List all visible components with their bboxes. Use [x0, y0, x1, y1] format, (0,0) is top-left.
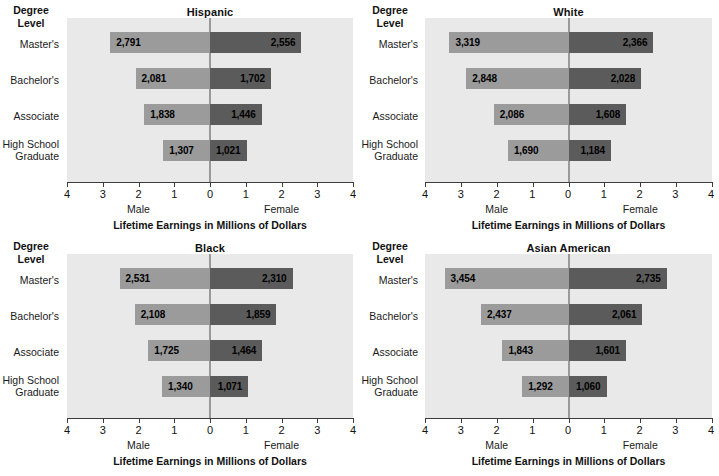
y-tick-label: Bachelor's: [356, 310, 418, 322]
x-axis-tick: [246, 182, 247, 187]
bar-value-label: 1,702: [234, 73, 271, 84]
x-tick-label: 1: [164, 188, 184, 200]
bar-value-label: 1,060: [570, 381, 607, 392]
chart-panel-white: WhiteDegree LevelMaster'sBachelor'sAssoc…: [359, 0, 719, 236]
bar-male: 1,307: [163, 140, 210, 161]
bar-male: 2,081: [136, 68, 210, 89]
bar-value-label: 1,601: [589, 345, 626, 356]
y-tick-label: Associate: [0, 110, 59, 122]
bar-value-label: 1,690: [508, 145, 545, 156]
chart-grid: HispanicDegree LevelMaster'sBachelor'sAs…: [0, 0, 719, 476]
bar-value-label: 1,446: [225, 109, 262, 120]
y-tick-label: Bachelor's: [356, 74, 418, 86]
bar-value-label: 2,848: [466, 73, 503, 84]
bar-row: 2,7912,556: [67, 32, 353, 53]
bar-row: 1,8381,446: [67, 104, 353, 125]
bar-male: 2,086: [494, 104, 569, 125]
x-axis-title: Lifetime Earnings in Millions of Dollars: [425, 455, 712, 467]
y-tick-label: Associate: [356, 110, 418, 122]
x-axis-tick: [139, 418, 140, 423]
bar-row: 1,6901,184: [425, 140, 712, 161]
bar-value-label: 1,859: [240, 309, 277, 320]
panel-title: Hispanic: [67, 6, 353, 18]
x-tick-label: 0: [200, 188, 220, 200]
x-axis-tick: [569, 418, 570, 423]
panel-title: Asian American: [425, 242, 712, 254]
x-tick-label: 3: [93, 424, 113, 436]
bar-female: 2,556: [210, 32, 301, 53]
x-axis-tick: [67, 418, 68, 423]
bar-value-label: 2,081: [136, 73, 173, 84]
y-tick-label: Associate: [0, 346, 59, 358]
y-tick-label: Master's: [0, 38, 59, 50]
bar-value-label: 1,307: [163, 145, 200, 156]
x-axis-tick: [461, 182, 462, 187]
bar-row: 2,8482,028: [425, 68, 712, 89]
bar-male: 2,437: [481, 304, 568, 325]
x-axis-tick: [353, 182, 354, 187]
plot-area: 2,5312,3102,1081,8591,7251,4641,3401,071: [67, 254, 353, 418]
y-axis-label-column: Degree LevelMaster'sBachelor'sAssociateH…: [359, 0, 421, 185]
x-tick-label: 1: [236, 188, 256, 200]
chart-panel-hispanic: HispanicDegree LevelMaster'sBachelor'sAs…: [0, 0, 359, 236]
bar-female: 2,735: [569, 268, 667, 289]
y-tick-label: High School Graduate: [0, 374, 59, 398]
x-tick-label: 3: [665, 188, 685, 200]
x-tick-label: 1: [522, 424, 542, 436]
x-axis-tick: [712, 182, 713, 187]
x-tick-label: 2: [129, 424, 149, 436]
bar-male: 2,531: [120, 268, 210, 289]
x-tick-label: 3: [451, 188, 471, 200]
x-axis-tick: [210, 418, 211, 423]
bar-value-label: 2,735: [630, 273, 667, 284]
y-tick-label: High School Graduate: [356, 374, 418, 398]
x-tick-label: 1: [164, 424, 184, 436]
y-axis-label-column: Degree LevelMaster'sBachelor'sAssociateH…: [359, 236, 421, 421]
chart-panel-asian-american: Asian AmericanDegree LevelMaster'sBachel…: [359, 236, 719, 476]
y-tick-label: High School Graduate: [0, 138, 59, 162]
y-tick-label: Bachelor's: [0, 74, 59, 86]
y-axis-title: Degree Level: [359, 4, 421, 29]
y-tick-label: Master's: [356, 38, 418, 50]
x-tick-label: 2: [487, 424, 507, 436]
bar-value-label: 2,028: [605, 73, 642, 84]
bar-value-label: 1,464: [226, 345, 263, 356]
bar-female: 1,702: [210, 68, 271, 89]
female-axis-label: Female: [242, 203, 322, 215]
x-axis-tick: [640, 418, 641, 423]
x-axis-tick-labels: 432101234: [415, 424, 719, 438]
bar-value-label: 1,838: [144, 109, 181, 120]
x-tick-label: 2: [487, 188, 507, 200]
bar-male: 1,690: [508, 140, 569, 161]
x-axis-tick: [497, 418, 498, 423]
y-axis-label-column: Degree LevelMaster'sBachelor'sAssociateH…: [0, 236, 62, 421]
bar-value-label: 1,725: [148, 345, 185, 356]
x-tick-label: 4: [57, 424, 77, 436]
bar-value-label: 1,843: [502, 345, 539, 356]
bar-female: 2,061: [569, 304, 643, 325]
x-tick-label: 3: [307, 424, 327, 436]
x-tick-label: 3: [93, 188, 113, 200]
x-axis-tick-labels: 432101234: [57, 424, 363, 438]
x-axis-tick: [282, 418, 283, 423]
bar-female: 2,366: [569, 32, 654, 53]
bar-female: 2,028: [569, 68, 642, 89]
x-axis-tick: [174, 418, 175, 423]
female-axis-label: Female: [600, 439, 680, 451]
female-axis-label: Female: [242, 439, 322, 451]
bar-value-label: 1,340: [162, 381, 199, 392]
x-axis-tick: [210, 182, 211, 187]
y-tick-label: High School Graduate: [356, 138, 418, 162]
x-tick-label: 1: [594, 424, 614, 436]
y-axis-label-column: Degree LevelMaster'sBachelor'sAssociateH…: [0, 0, 62, 185]
bar-value-label: 1,071: [212, 381, 249, 392]
bar-value-label: 2,061: [606, 309, 643, 320]
bar-value-label: 3,319: [449, 37, 486, 48]
x-tick-label: 1: [236, 424, 256, 436]
male-axis-label: Male: [457, 203, 537, 215]
panel-title: White: [425, 6, 712, 18]
bar-row: 2,5312,310: [67, 268, 353, 289]
x-axis-tick: [461, 418, 462, 423]
x-tick-label: 2: [630, 424, 650, 436]
bar-row: 3,4542,735: [425, 268, 712, 289]
